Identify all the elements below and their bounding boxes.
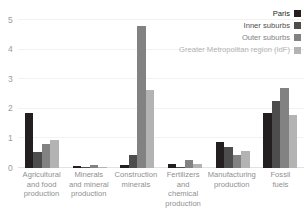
bar bbox=[42, 144, 51, 168]
bar bbox=[216, 142, 225, 168]
y-axis-tick-label: 4 bbox=[8, 45, 18, 54]
bar bbox=[81, 167, 90, 168]
x-axis-tick-label: Fossil fuels bbox=[257, 170, 304, 208]
bar bbox=[289, 115, 298, 168]
legend-item[interactable]: Outer suburbs bbox=[242, 34, 301, 42]
bar bbox=[280, 88, 289, 168]
bar bbox=[137, 26, 146, 168]
bar bbox=[185, 160, 194, 168]
bar bbox=[73, 166, 82, 168]
y-axis-tick-label: 3 bbox=[8, 75, 18, 84]
bar bbox=[233, 155, 242, 168]
y-axis-tick-label: 2 bbox=[8, 105, 18, 114]
legend-item[interactable]: Paris bbox=[273, 10, 301, 18]
bar bbox=[120, 165, 129, 168]
bar bbox=[33, 152, 42, 168]
x-axis-tick-label: Minerals and mineral production bbox=[65, 170, 112, 208]
x-axis-tick-label: Construction minerals bbox=[112, 170, 159, 208]
legend-item-label: Inner suburbs bbox=[244, 22, 290, 30]
bar bbox=[224, 147, 233, 168]
legend-color-swatch bbox=[294, 22, 301, 29]
legend-item[interactable]: Inner suburbs bbox=[244, 22, 301, 30]
x-axis-tick-labels: Agricultural and food productionMinerals… bbox=[18, 170, 304, 208]
legend-item-label: Paris bbox=[273, 10, 290, 18]
bar bbox=[50, 140, 59, 168]
legend-item-label: Greater Metropolitan region (IdF) bbox=[179, 46, 290, 54]
bar-group bbox=[66, 20, 114, 168]
bar bbox=[146, 90, 155, 168]
bar bbox=[90, 165, 99, 168]
chart-legend: ParisInner suburbsOuter suburbsGreater M… bbox=[179, 10, 301, 54]
x-axis-tick-label: Manufacturing production bbox=[207, 170, 257, 208]
legend-color-swatch bbox=[294, 34, 301, 41]
legend-item-label: Outer suburbs bbox=[242, 34, 290, 42]
legend-color-swatch bbox=[294, 47, 301, 54]
y-axis-tick-label: 5 bbox=[8, 16, 18, 25]
bar bbox=[193, 164, 202, 168]
bar bbox=[176, 167, 185, 168]
legend-color-swatch bbox=[294, 10, 301, 17]
bar bbox=[241, 151, 250, 168]
bar bbox=[129, 155, 138, 168]
x-axis-tick-label: Fertilizers and chemical production bbox=[160, 170, 207, 208]
bar bbox=[168, 164, 177, 168]
bar bbox=[272, 101, 281, 168]
bar-group bbox=[113, 20, 161, 168]
x-axis-tick-label: Agricultural and food production bbox=[18, 170, 65, 208]
bar bbox=[263, 113, 272, 168]
legend-item[interactable]: Greater Metropolitan region (IdF) bbox=[179, 46, 301, 54]
y-axis-tick-label: 1 bbox=[8, 134, 18, 143]
bar-chart: 012345 Agricultural and food productionM… bbox=[0, 0, 304, 215]
bar bbox=[98, 167, 107, 168]
bar-group bbox=[18, 20, 66, 168]
bar bbox=[25, 113, 34, 168]
y-axis-tick-label: 0 bbox=[8, 164, 18, 173]
